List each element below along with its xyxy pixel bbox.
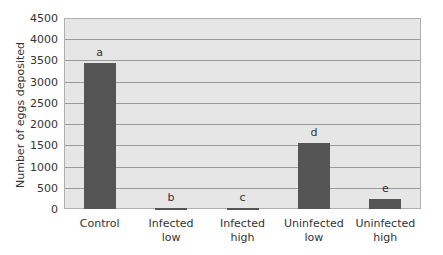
gridline	[65, 39, 420, 40]
y-tick-label: 3500	[30, 54, 58, 67]
x-tick-label: Control	[60, 217, 140, 231]
gridline	[65, 82, 420, 83]
significance-label: b	[168, 191, 175, 204]
gridline	[65, 60, 420, 61]
significance-label: c	[239, 191, 245, 204]
gridline	[65, 188, 420, 189]
y-axis-label: Number of eggs deposited	[14, 42, 27, 188]
significance-label: d	[310, 126, 317, 139]
x-tick-label: Infectedhigh	[203, 217, 283, 245]
y-tick-label: 1000	[30, 160, 58, 173]
bar-uninfected-low	[298, 143, 330, 209]
y-tick-label: 4000	[30, 33, 58, 46]
y-tick-label: 500	[37, 181, 58, 194]
y-tick-label: 4500	[30, 12, 58, 25]
y-tick-label: 1500	[30, 139, 58, 152]
bar-uninfected-high	[369, 199, 401, 209]
plot-area	[64, 18, 421, 209]
gridline	[65, 145, 420, 146]
y-tick-label: 2500	[30, 96, 58, 109]
x-tick-label: Uninfectedhigh	[345, 217, 425, 245]
bar-control	[84, 63, 116, 209]
bar-infected-low	[155, 208, 187, 210]
y-tick-label: 3000	[30, 75, 58, 88]
gridline	[65, 167, 420, 168]
significance-label: e	[382, 182, 389, 195]
gridline	[65, 124, 420, 125]
y-tick-label: 2000	[30, 118, 58, 131]
gridline	[65, 103, 420, 104]
y-tick-label: 0	[51, 203, 58, 216]
significance-label: a	[96, 46, 103, 59]
x-tick-label: Uninfectedlow	[274, 217, 354, 245]
x-tick-label: Infectedlow	[131, 217, 211, 245]
bar-infected-high	[227, 208, 259, 210]
